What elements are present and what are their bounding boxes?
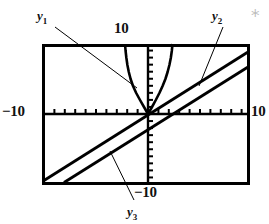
page-artifact: ⁎ [251, 0, 267, 16]
curve-label-y2: y2 [212, 9, 222, 26]
curve-label-y1: y1 [37, 9, 47, 26]
graph-figure: 10 −10 10 −10 y1 y2 y3 ⁎ [0, 0, 269, 224]
curve-label-y2-sub: 2 [218, 16, 223, 26]
axis-label-top: 10 [114, 21, 128, 36]
curve-label-y3-sub: 3 [133, 212, 138, 222]
axis-label-right: 10 [251, 104, 265, 119]
axis-label-left: −10 [2, 104, 25, 119]
curve-label-y3: y3 [127, 205, 137, 222]
axis-label-bottom: −10 [134, 185, 157, 200]
curve-label-y1-sub: 1 [43, 16, 48, 26]
